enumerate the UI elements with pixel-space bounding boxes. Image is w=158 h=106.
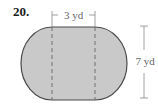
width-dimension: 3 yd [52,9,95,27]
height-label: 7 yd [135,55,155,67]
height-dimension: 7 yd [135,26,155,98]
stadium-figure: 3 yd 7 yd [0,0,158,106]
stadium-shape [21,27,127,100]
width-label: 3 yd [64,9,84,21]
